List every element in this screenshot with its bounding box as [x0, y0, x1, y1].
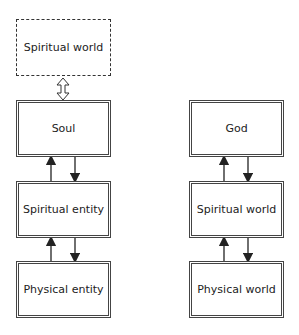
- node-spiritual-world: Spiritual world: [189, 181, 284, 238]
- node-label: Spiritual world: [197, 203, 276, 216]
- node-soul: Soul: [16, 100, 111, 157]
- node-physical-entity: Physical entity: [16, 261, 111, 318]
- node-god: God: [189, 100, 284, 157]
- double-arrow-icon: [57, 78, 69, 100]
- node-label: Physical world: [197, 283, 276, 296]
- node-label: God: [225, 122, 247, 135]
- node-label: Physical entity: [23, 283, 103, 296]
- node-physical-world: Physical world: [189, 261, 284, 318]
- node-label: Soul: [52, 122, 76, 135]
- node-label: Spiritual entity: [23, 203, 104, 216]
- node-label: Spiritual world: [24, 41, 103, 54]
- node-spiritual-world-dashed: Spiritual world: [16, 19, 111, 76]
- node-spiritual-entity: Spiritual entity: [16, 181, 111, 238]
